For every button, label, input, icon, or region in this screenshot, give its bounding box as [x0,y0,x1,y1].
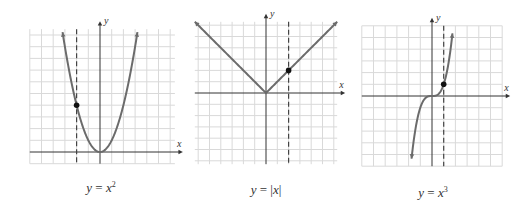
graph-y-equals-abs-x: xy [195,8,345,164]
y-axis-label: y [435,12,441,23]
y-axis-arrow-icon [98,21,103,25]
grid-lines [30,29,175,164]
x-axis-label: x [176,138,182,149]
caption-exponent: 2 [112,180,116,189]
highlighted-point [441,82,447,88]
x-axis-arrow-icon [178,150,182,155]
y-axis-label: y [103,15,109,26]
caption-equals: = [256,182,270,197]
x-axis-arrow-icon [506,94,510,99]
x-axis-label: x [503,82,509,93]
caption-y-equals-x-squared: y = x2 [86,180,115,196]
graph-y-equals-x-squared: xy [30,15,183,164]
caption-y-equals-x-cubed: y = x3 [418,185,447,201]
highlighted-point [74,102,80,108]
caption-equals: = [424,185,438,200]
y-axis-arrow-icon [430,18,435,22]
graph-y-equals-x-cubed: xy [362,12,510,166]
y-axis-label: y [269,8,275,19]
function-graphs-figure: xy xy xy [0,0,526,207]
x-axis-arrow-icon [341,91,345,96]
y-axis-arrow-icon [264,14,269,18]
x-axis-label: x [338,79,344,90]
caption-equals: = [92,180,106,195]
highlighted-point [286,68,292,74]
abs-bar-right: | [279,182,282,197]
caption-exponent: 3 [444,185,448,194]
caption-y-equals-abs-x: y = |x| [251,182,282,198]
